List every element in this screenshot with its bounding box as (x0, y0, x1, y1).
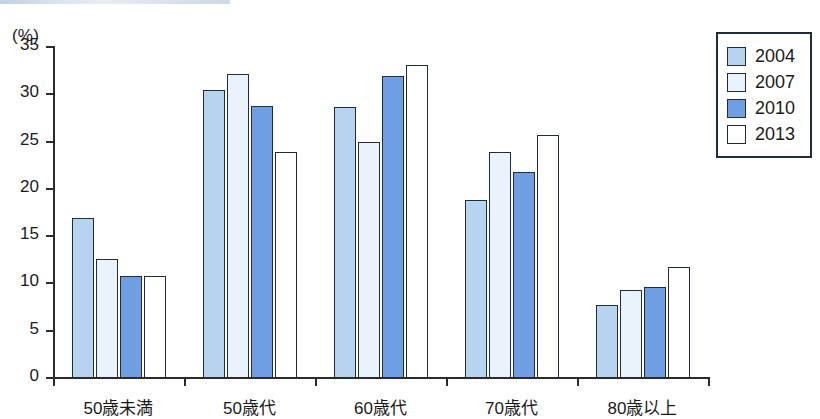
bar (251, 106, 273, 377)
x-axis-category-label: 50歳代 (223, 394, 276, 419)
bar (465, 200, 487, 377)
x-axis-tick (708, 377, 710, 386)
bar (203, 90, 225, 377)
bar (596, 305, 618, 377)
y-axis-tick-label: 35 (20, 35, 39, 55)
legend-label: 2004 (755, 47, 795, 65)
legend-swatch (727, 47, 746, 66)
legend-item: 2013 (727, 121, 802, 147)
y-axis-tick-label: 10 (20, 271, 39, 291)
legend-swatch (727, 73, 746, 92)
x-axis-category-label: 50歳未満 (84, 394, 154, 419)
y-axis-tick: 25 (46, 141, 55, 143)
bar (644, 287, 666, 377)
y-axis-tick: 20 (46, 188, 55, 190)
legend-item: 2004 (727, 43, 802, 69)
y-axis-tick-label: 5 (30, 319, 39, 339)
plot-area: 05101520253035 50歳未満50歳代60歳代70歳代80歳以上 (53, 46, 708, 378)
bar (72, 218, 94, 377)
y-axis-tick-label: 20 (20, 177, 39, 197)
legend-label: 2007 (755, 73, 795, 91)
legend-label: 2013 (755, 125, 795, 143)
bar (120, 276, 142, 377)
x-axis-tick (446, 377, 448, 386)
y-axis-tick-label: 0 (30, 366, 39, 386)
bar (668, 267, 690, 377)
x-axis-tick (184, 377, 186, 386)
y-axis-tick-label: 15 (20, 224, 39, 244)
x-axis-category-label: 80歳以上 (608, 394, 678, 419)
x-axis-category-label: 70歳代 (485, 394, 538, 419)
bar (489, 152, 511, 377)
bar (406, 65, 428, 377)
y-axis-tick: 5 (46, 330, 55, 332)
y-axis-tick: 15 (46, 235, 55, 237)
y-axis-tick: 10 (46, 282, 55, 284)
x-axis-tick (577, 377, 579, 386)
legend-label: 2010 (755, 99, 795, 117)
y-axis-tick-label: 30 (20, 82, 39, 102)
bar (96, 259, 118, 377)
x-axis-tick (53, 377, 55, 386)
legend-item: 2010 (727, 95, 802, 121)
y-axis-tick: 30 (46, 93, 55, 95)
y-axis-tick-label: 25 (20, 130, 39, 150)
bar (334, 107, 356, 377)
legend-swatch (727, 125, 746, 144)
legend: 2004200720102013 (716, 32, 812, 158)
bar (537, 135, 559, 377)
bar (144, 276, 166, 377)
x-axis-category-label: 60歳代 (354, 394, 407, 419)
bar (227, 74, 249, 377)
bar (275, 152, 297, 377)
legend-swatch (727, 99, 746, 118)
bar (382, 76, 404, 377)
bar (358, 142, 380, 377)
x-axis-line (53, 377, 710, 379)
scan-artifact-stripe (0, 0, 230, 4)
bar (620, 290, 642, 377)
bar (513, 172, 535, 377)
legend-item: 2007 (727, 69, 802, 95)
y-axis-tick: 35 (46, 46, 55, 48)
x-axis-tick (315, 377, 317, 386)
